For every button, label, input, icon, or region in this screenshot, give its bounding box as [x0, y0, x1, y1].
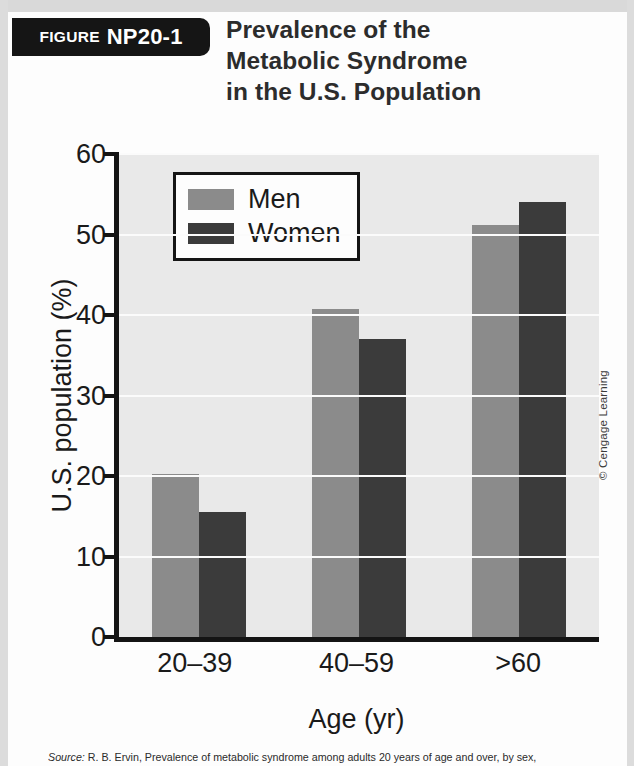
figure-container: FIGURE NP20-1 Prevalence of the Metaboli…: [0, 0, 634, 766]
legend-swatch-men: [188, 189, 234, 210]
plot-region: Men Women: [114, 154, 599, 642]
figure-number-badge: FIGURE NP20-1: [12, 18, 210, 56]
figure-title: Prevalence of the Metabolic Syndrome in …: [226, 14, 626, 107]
figure-tag-word: FIGURE: [39, 28, 99, 46]
legend-label-men: Men: [248, 186, 301, 213]
gridline: [119, 395, 599, 397]
y-axis-tick: [103, 635, 119, 639]
figure-header: FIGURE NP20-1 Prevalence of the Metaboli…: [8, 12, 626, 128]
figure-title-line-2: Metabolic Syndrome: [226, 45, 626, 76]
y-axis-tick: [103, 394, 119, 398]
gridline: [119, 153, 599, 155]
bar-women-0: [199, 512, 246, 637]
y-axis-tick-labels: 0102030405060: [44, 128, 106, 668]
chart-legend: Men Women: [173, 172, 360, 261]
x-axis-label: Age (yr): [114, 704, 599, 735]
bar-women-1: [359, 339, 406, 637]
figure-title-line-3: in the U.S. Population: [226, 76, 626, 107]
y-axis-tick: [103, 313, 119, 317]
x-axis-tick-label: >60: [437, 648, 599, 679]
figure-title-line-1: Prevalence of the: [226, 14, 626, 45]
bar-women-2: [519, 202, 566, 638]
y-axis-tick: [103, 233, 119, 237]
y-axis-tick: [103, 152, 119, 156]
y-axis-tick: [103, 474, 119, 478]
x-axis-tick-labels: 20–3940–59>60: [114, 648, 599, 679]
chart-area: U.S. population (%) 0102030405060 Men Wo…: [8, 128, 626, 738]
y-axis-tick-label: 60: [76, 139, 106, 170]
x-axis-tick-label: 40–59: [276, 648, 438, 679]
figure-tag-number: NP20-1: [107, 24, 183, 50]
gridline: [119, 475, 599, 477]
y-axis-tick-label: 30: [76, 380, 106, 411]
page-edge-left: [0, 0, 8, 766]
y-axis-tick-label: 40: [76, 300, 106, 331]
source-text: R. B. Ervin, Prevalence of metabolic syn…: [85, 751, 536, 763]
page-edge-top: [0, 0, 634, 12]
source-label: Source:: [48, 751, 85, 763]
y-axis-tick: [103, 555, 119, 559]
legend-entry-men: Men: [188, 182, 341, 216]
x-axis-tick-label: 20–39: [114, 648, 276, 679]
copyright-credit: © Cengage Learning: [597, 370, 609, 480]
bar-men-2: [472, 225, 519, 637]
y-axis-tick-label: 50: [76, 219, 106, 250]
y-axis-tick-label: 10: [76, 541, 106, 572]
source-note: Source: R. B. Ervin, Prevalence of metab…: [48, 750, 608, 764]
gridline: [119, 234, 599, 236]
bar-men-1: [312, 309, 359, 637]
y-axis-tick-label: 20: [76, 461, 106, 492]
gridline: [119, 314, 599, 316]
gridline: [119, 556, 599, 558]
page-edge-right: [627, 0, 634, 766]
